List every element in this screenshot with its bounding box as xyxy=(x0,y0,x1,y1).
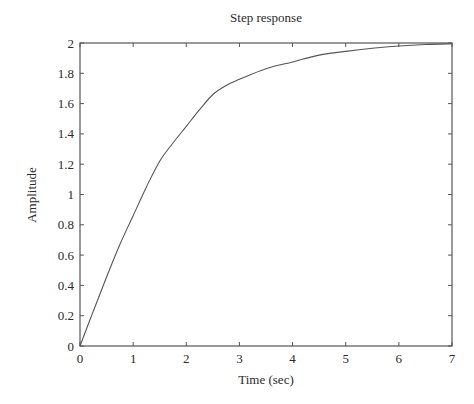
y-tick-label: 0 xyxy=(68,339,75,354)
step-response-line xyxy=(80,44,452,346)
x-tick-label: 4 xyxy=(289,351,296,366)
plot-frame xyxy=(80,43,452,346)
y-tick-label: 0.8 xyxy=(58,217,74,232)
x-tick-label: 6 xyxy=(396,351,403,366)
x-axis-label: Time (sec) xyxy=(238,372,294,387)
chart-title: Step response xyxy=(230,10,302,25)
x-tick-label: 0 xyxy=(77,351,84,366)
y-tick-label: 0.6 xyxy=(58,248,75,263)
x-tick-label: 3 xyxy=(236,351,243,366)
plot-border xyxy=(80,43,452,346)
y-axis-ticks: 00.20.40.60.811.21.41.61.82 xyxy=(58,36,452,354)
y-tick-label: 1.2 xyxy=(58,157,74,172)
series-layer xyxy=(80,44,452,346)
x-tick-label: 2 xyxy=(183,351,190,366)
step-response-chart: Step response 01234567 00.20.40.60.811.2… xyxy=(0,0,474,404)
x-tick-label: 1 xyxy=(130,351,137,366)
y-tick-label: 1 xyxy=(68,187,75,202)
y-tick-label: 2 xyxy=(68,36,75,51)
y-tick-label: 1.4 xyxy=(58,126,75,141)
y-tick-label: 0.2 xyxy=(58,308,74,323)
x-tick-label: 7 xyxy=(449,351,456,366)
y-tick-label: 1.6 xyxy=(58,96,75,111)
y-tick-label: 0.4 xyxy=(58,278,75,293)
y-tick-label: 1.8 xyxy=(58,66,74,81)
y-axis-label: Amplitude xyxy=(24,167,39,223)
x-axis-ticks: 01234567 xyxy=(77,43,456,366)
chart-svg: Step response 01234567 00.20.40.60.811.2… xyxy=(0,0,474,404)
x-tick-label: 5 xyxy=(342,351,349,366)
